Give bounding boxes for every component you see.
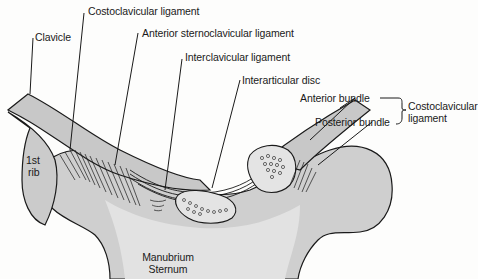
label-first-rib-line1: 1st [26, 154, 40, 166]
label-costoclavicular-ligament: Costoclavicular ligament [88, 5, 199, 17]
label-manubrium-line2: Sternum [133, 263, 203, 275]
label-anterior-sternoclavicular-ligament: Anterior sternoclavicular ligament [142, 27, 294, 39]
sternoclavicular-joint-diagram: Clavicle Costoclavicular ligament Anteri… [0, 0, 478, 279]
bracket-icon [396, 98, 406, 124]
label-interclavicular-ligament: Interclavicular ligament [185, 51, 290, 63]
label-first-rib-line2: rib [28, 166, 39, 178]
label-posterior-bundle: Posterior bundle [315, 116, 390, 128]
interarticular-disc [248, 145, 296, 192]
label-anterior-bundle: Anterior bundle [300, 92, 370, 104]
label-manubrium-line1: Manubrium [133, 251, 203, 263]
label-costoclavicular-group-line2: ligament [408, 112, 447, 124]
label-clavicle: Clavicle [35, 31, 71, 43]
label-costoclavicular-group-line1: Costoclavicular [408, 100, 478, 112]
label-interarticular-disc: Interarticular disc [242, 74, 320, 86]
anatomy-illustration [0, 0, 478, 279]
